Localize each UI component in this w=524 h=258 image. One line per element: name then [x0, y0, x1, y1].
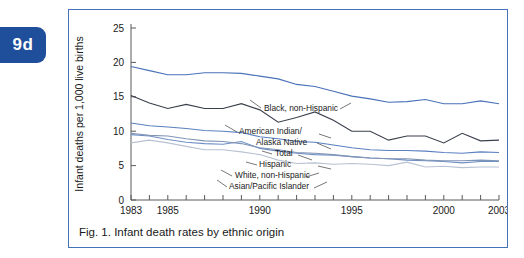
x-axis-tick-label: 1983 [120, 205, 143, 216]
x-axis-tick-label: 2003 [488, 205, 507, 216]
series-inline-label: Asian/Pacific Islander [229, 181, 309, 191]
label-leader-line [318, 166, 331, 169]
series-line-asian-pacific-islander [131, 140, 499, 168]
y-axis-tick-label: 10 [113, 126, 125, 137]
label-leader-line [298, 155, 312, 160]
series-line-total [131, 123, 499, 153]
x-axis-tick-label: 1995 [341, 205, 364, 216]
series-line-black-non-hispanic [131, 67, 499, 104]
label-leader-line [340, 103, 351, 109]
y-axis-tick-label: 5 [118, 160, 124, 171]
series-inline-label: American Indian/ [239, 126, 303, 136]
series-inline-label: Total [275, 148, 293, 158]
page-badge: 9d [0, 27, 46, 63]
y-axis-title: Infant deaths per 1,000 live births [73, 36, 85, 191]
page-badge-label: 9d [13, 35, 34, 55]
x-axis-tick-label: 1985 [157, 205, 180, 216]
y-axis-tick-label: 15 [113, 91, 125, 102]
label-leader-line [262, 151, 272, 154]
y-axis-tick-label: 25 [113, 23, 125, 34]
series-inline-label: Hispanic [259, 159, 291, 169]
figure-container: 0510152025198319851990199520002003Infant… [68, 9, 508, 248]
label-leader-line [246, 162, 257, 165]
series-inline-label: Black, non-Hispanic [264, 103, 338, 113]
x-axis-tick-label: 1990 [249, 205, 272, 216]
label-leader-line [314, 182, 327, 188]
figure-caption: Fig. 1. Infant death rates by ethnic ori… [79, 226, 284, 238]
series-line-white-non-hispanic [131, 133, 499, 161]
label-leader-line [217, 180, 227, 187]
series-inline-label: White, non-Hispanic [235, 170, 310, 180]
chart-plot-area: 0510152025198319851990199520002003Infant… [69, 10, 507, 222]
label-leader-line [221, 170, 232, 176]
y-axis-tick-label: 20 [113, 57, 125, 68]
series-inline-label: Alaska Native [256, 137, 308, 147]
label-leader-line [319, 134, 331, 138]
y-axis-tick-label: 0 [118, 195, 124, 206]
x-axis-tick-label: 2000 [433, 205, 456, 216]
infant-death-rates-line-chart: 0510152025198319851990199520002003Infant… [69, 10, 507, 222]
